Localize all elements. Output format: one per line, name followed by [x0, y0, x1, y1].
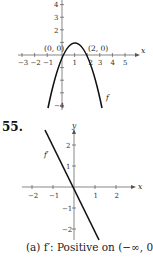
top-graph: x −3 −2 −1 1 2 3 4 5 4 3	[18, 0, 146, 110]
svg-text:1: 1	[73, 59, 77, 67]
svg-text:2: 2	[54, 27, 58, 35]
svg-text:2: 2	[115, 192, 119, 200]
answer-caption: (a) f′: Positive on (−∞, 0	[26, 241, 153, 253]
svg-text:3: 3	[98, 59, 102, 67]
svg-text:1: 1	[94, 192, 98, 200]
svg-text:−2: −2	[28, 192, 38, 200]
svg-text:2: 2	[66, 142, 70, 150]
curve-label-f-prime: f′	[43, 150, 49, 159]
bottom-x-axis-label: x	[138, 182, 143, 191]
svg-text:1: 1	[66, 163, 70, 171]
svg-text:−3: −3	[18, 59, 28, 67]
svg-text:4: 4	[54, 1, 59, 9]
figure-canvas: x −3 −2 −1 1 2 3 4 5 4 3	[0, 0, 153, 260]
svg-text:−2: −2	[31, 59, 41, 67]
bottom-graph: y x −2 −1 1 2 2 1 −1 −2 f′	[22, 121, 143, 240]
bottom-y-tick-labels: 2 1 −1 −2	[62, 142, 72, 234]
problem-number: 55.	[2, 120, 23, 134]
svg-text:−1: −1	[62, 205, 72, 213]
svg-text:5: 5	[123, 59, 127, 67]
point-label-2-0: (2, 0)	[88, 44, 108, 53]
svg-text:−1: −1	[43, 59, 53, 67]
svg-text:−4: −4	[54, 102, 65, 110]
top-x-tick-labels: −3 −2 −1 1 2 3 4 5	[18, 59, 127, 67]
svg-text:−2: −2	[62, 226, 72, 234]
svg-text:3: 3	[54, 14, 58, 22]
svg-text:4: 4	[111, 59, 116, 67]
point-label-origin: (0, 0)	[44, 44, 64, 53]
svg-text:−1: −1	[49, 192, 59, 200]
bottom-y-axis-label: y	[71, 121, 77, 130]
top-x-axis-label: x	[141, 46, 146, 55]
bottom-x-tick-labels: −2 −1 1 2	[28, 192, 119, 200]
curve-label-f: f	[105, 93, 110, 102]
